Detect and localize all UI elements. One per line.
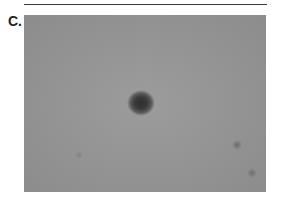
panel-label: C. (8, 13, 22, 29)
top-rule (24, 4, 267, 5)
skin-lesion-photo (24, 15, 266, 192)
